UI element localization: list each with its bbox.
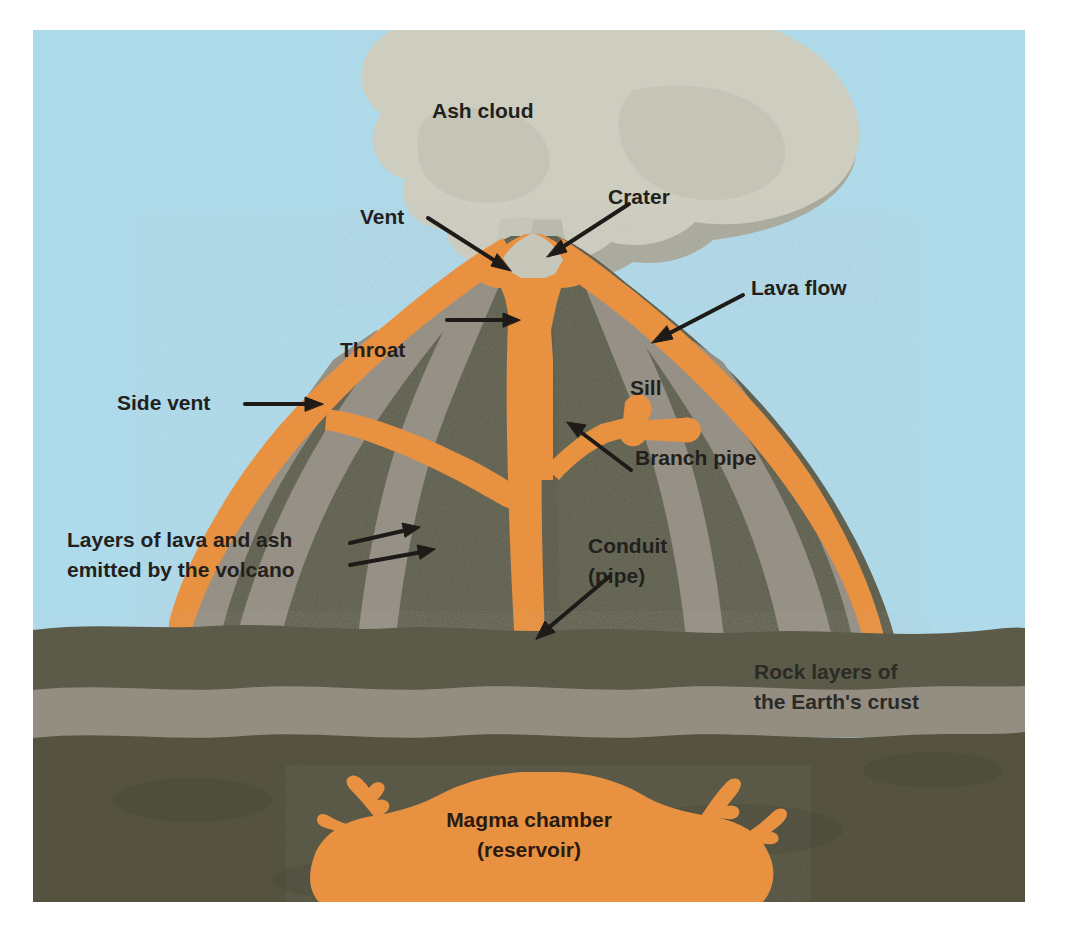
label-layers-line2: emitted by the volcano	[67, 557, 295, 582]
figure-canvas: Ash cloud Crater Vent Lava flow Throat S…	[0, 0, 1067, 929]
label-magma-line2: (reservoir)	[33, 837, 1025, 862]
label-throat: Throat	[340, 337, 405, 362]
label-rock-layers-line1: Rock layers of	[754, 659, 898, 684]
label-vent: Vent	[360, 204, 404, 229]
label-magma-line1: Magma chamber	[33, 807, 1025, 832]
label-layers-line1: Layers of lava and ash	[67, 527, 292, 552]
label-ash-cloud: Ash cloud	[432, 98, 534, 123]
label-crater: Crater	[608, 184, 670, 209]
label-sill: Sill	[630, 375, 662, 400]
volcano-illustration	[33, 30, 1025, 902]
label-lava-flow: Lava flow	[751, 275, 847, 300]
label-side-vent: Side vent	[117, 390, 210, 415]
label-conduit-line2: (pipe)	[588, 563, 645, 588]
label-conduit-line1: Conduit	[588, 533, 667, 558]
volcano-diagram: Ash cloud Crater Vent Lava flow Throat S…	[33, 30, 1025, 902]
label-branch-pipe: Branch pipe	[635, 445, 756, 470]
label-rock-layers-line2: the Earth's crust	[754, 689, 919, 714]
